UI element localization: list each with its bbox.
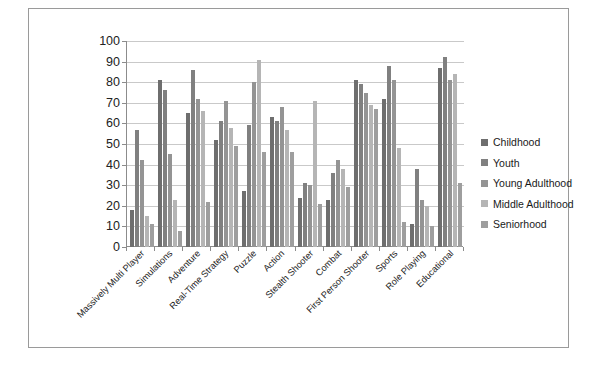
legend-swatch-icon xyxy=(481,180,488,187)
bar-groups xyxy=(128,41,464,247)
bar xyxy=(186,113,190,247)
bar xyxy=(318,204,322,247)
legend-swatch-icon xyxy=(481,200,488,207)
bar xyxy=(346,187,350,247)
legend-item: Youth xyxy=(481,158,574,169)
bar xyxy=(234,146,238,247)
y-axis-tick-mark xyxy=(122,144,126,145)
bar xyxy=(270,117,274,247)
bar-group xyxy=(352,41,380,247)
bar xyxy=(326,200,330,247)
bar xyxy=(438,68,442,247)
bar-group xyxy=(156,41,184,247)
bar xyxy=(178,231,182,247)
bar xyxy=(290,152,294,247)
bar-group xyxy=(128,41,156,247)
bar xyxy=(369,105,373,247)
bar xyxy=(359,84,363,247)
x-axis-tick-mark xyxy=(238,247,239,251)
bar xyxy=(387,66,391,247)
bar xyxy=(392,80,396,247)
bar xyxy=(196,99,200,247)
bar xyxy=(364,93,368,248)
bar xyxy=(415,169,419,247)
bar xyxy=(201,111,205,247)
legend-label: Seniorhood xyxy=(493,219,547,230)
bar xyxy=(219,121,223,247)
bar xyxy=(303,183,307,247)
legend-swatch-icon xyxy=(481,221,488,228)
bar xyxy=(430,226,434,247)
x-axis-tick-mark xyxy=(210,247,211,251)
bar xyxy=(163,90,167,247)
bar xyxy=(206,202,210,247)
bar xyxy=(224,101,228,247)
bar xyxy=(252,82,256,247)
x-axis-tick-mark xyxy=(266,247,267,251)
y-axis-tick-mark xyxy=(122,82,126,83)
bar xyxy=(458,183,462,247)
legend-label: Childhood xyxy=(493,137,540,148)
y-axis-tick-mark xyxy=(122,103,126,104)
bar-group xyxy=(268,41,296,247)
bar xyxy=(280,107,284,247)
bar-group xyxy=(296,41,324,247)
bar xyxy=(229,128,233,247)
y-axis-tick-mark xyxy=(122,123,126,124)
bar xyxy=(374,109,378,247)
bar xyxy=(443,57,447,247)
bar xyxy=(354,80,358,247)
bar xyxy=(257,60,261,247)
x-axis-tick-mark xyxy=(126,247,127,251)
bar-group xyxy=(408,41,436,247)
legend-label: Youth xyxy=(493,158,519,169)
y-axis-tick-mark xyxy=(122,62,126,63)
y-axis-tick-mark xyxy=(122,41,126,42)
x-axis-tick-mark xyxy=(154,247,155,251)
bar xyxy=(453,74,457,247)
legend-item: Childhood xyxy=(481,137,574,148)
bar xyxy=(425,206,429,247)
x-axis-category-label: Action xyxy=(262,249,287,274)
bar xyxy=(336,160,340,247)
bar xyxy=(397,148,401,247)
bar xyxy=(242,191,246,247)
y-axis-tick-mark xyxy=(122,165,126,166)
chart-screenshot: 1009080706050403020100 Massively Multi P… xyxy=(0,0,598,365)
bar-group xyxy=(436,41,464,247)
y-axis-tick-mark xyxy=(122,185,126,186)
x-axis-category-label: Sports xyxy=(374,249,399,274)
legend-swatch-icon xyxy=(481,139,488,146)
bar xyxy=(262,152,266,247)
bar xyxy=(382,99,386,247)
bar xyxy=(341,169,345,247)
bar xyxy=(130,210,134,247)
x-axis-tick-mark xyxy=(463,247,464,251)
bar-group xyxy=(380,41,408,247)
bar-group xyxy=(184,41,212,247)
bar xyxy=(285,130,289,247)
bar-group xyxy=(240,41,268,247)
legend-label: Young Adulthood xyxy=(493,178,572,189)
bar xyxy=(308,185,312,247)
bar-group xyxy=(212,41,240,247)
bar xyxy=(135,130,139,247)
plot-wrapper: 1009080706050403020100 xyxy=(126,41,463,247)
legend-item: Middle Adulthood xyxy=(481,199,574,210)
bar xyxy=(448,80,452,247)
x-axis-tick-mark xyxy=(435,247,436,251)
bar-group xyxy=(324,41,352,247)
x-axis-category-label: Puzzle xyxy=(233,249,259,275)
x-axis-tick-mark xyxy=(182,247,183,251)
legend-label: Middle Adulthood xyxy=(493,199,574,210)
bar xyxy=(191,70,195,247)
bar xyxy=(168,154,172,247)
bar xyxy=(331,173,335,247)
x-axis-tick-mark xyxy=(407,247,408,251)
x-axis-tick-mark xyxy=(379,247,380,251)
bar xyxy=(275,121,279,247)
bar xyxy=(158,80,162,247)
y-axis-tick-mark xyxy=(122,206,126,207)
x-axis-tick-mark xyxy=(323,247,324,251)
bar xyxy=(420,200,424,247)
